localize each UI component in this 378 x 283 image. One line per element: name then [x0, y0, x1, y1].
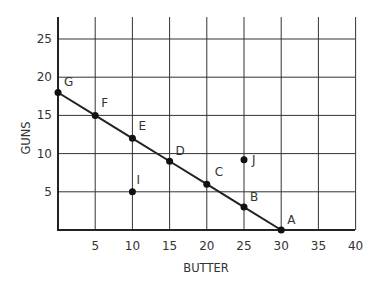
point-a: [278, 227, 285, 234]
point-f: [92, 112, 99, 119]
point-d: [166, 158, 173, 165]
x-tick-label: 40: [348, 239, 363, 253]
x-axis-label: BUTTER: [183, 261, 228, 275]
y-tick-label: 5: [44, 185, 52, 199]
y-tick-label: 20: [37, 70, 52, 84]
point-label-b: B: [250, 190, 258, 204]
point-label-e: E: [138, 119, 146, 133]
point-label-f: F: [101, 96, 108, 110]
point-label-d: D: [176, 144, 185, 158]
y-axis-label: GUNS: [19, 121, 33, 154]
point-b: [241, 204, 248, 211]
y-tick-label: 10: [37, 147, 52, 161]
point-label-j: J: [251, 153, 256, 167]
point-g: [55, 89, 62, 96]
x-tick-label: 5: [91, 239, 99, 253]
point-c: [203, 181, 210, 188]
x-tick-label: 10: [125, 239, 140, 253]
point-label-g: G: [64, 75, 73, 89]
y-tick-label: 15: [37, 108, 52, 122]
x-tick-label: 25: [236, 239, 251, 253]
point-e: [129, 135, 136, 142]
x-tick-label: 30: [274, 239, 289, 253]
x-tick-label: 15: [162, 239, 177, 253]
x-tick-label: 35: [311, 239, 326, 253]
y-tick-label: 25: [37, 32, 52, 46]
point-j: [241, 156, 248, 163]
point-i: [129, 188, 136, 195]
x-tick-label: 20: [199, 239, 214, 253]
point-label-c: C: [215, 165, 223, 179]
point-label-i: I: [136, 173, 140, 187]
point-label-a: A: [287, 213, 296, 227]
ppf-chart: 510152025303540510152025BUTTERGUNSGFEDCB…: [0, 0, 378, 283]
